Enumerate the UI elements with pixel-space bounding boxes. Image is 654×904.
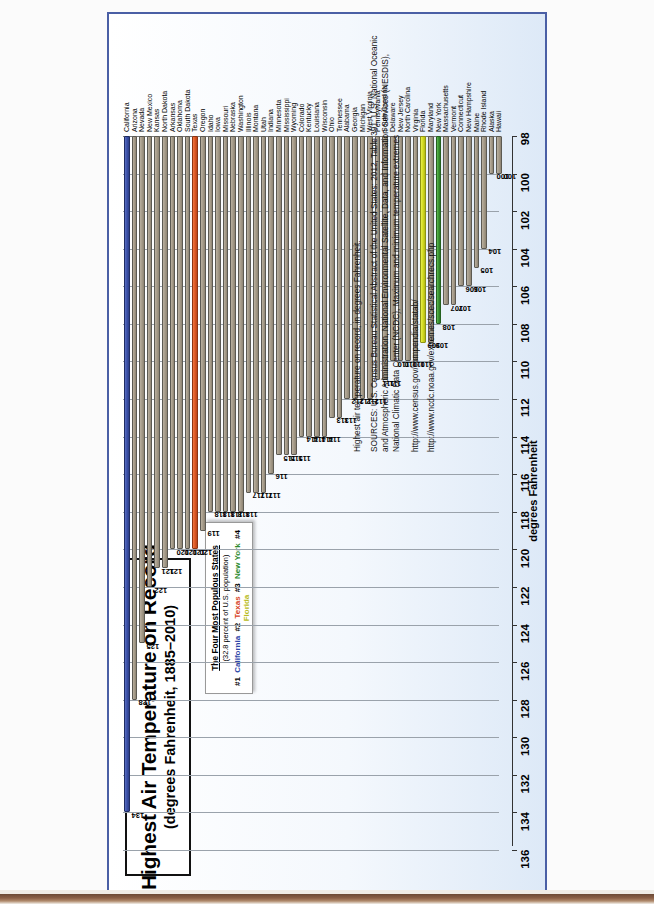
bar-california [124,136,130,812]
bar-row: 114Kentucky [306,136,312,850]
bar-texas [192,136,198,549]
bar-row: 117Utah [261,136,267,850]
bar-row: 119Oregon [200,136,206,850]
bar-colorado [299,136,305,437]
bar-arkansas [170,136,176,549]
bar-row: 118Missouri [223,136,229,850]
bar-row: 118Nebraska [230,136,236,850]
bar-row: 122New Mexico [147,136,153,850]
category-label: Arkansas [169,103,177,132]
bar-row: 112Alabama [344,136,350,850]
axis-tick [512,512,517,513]
bar-row: 118Washington [238,136,244,850]
bar-idaho [208,136,214,512]
category-label: Nevada [138,108,146,132]
bar-row: 125Nevada [139,136,145,850]
category-label: Missouri [222,106,230,132]
category-label: Tennessee [336,98,344,132]
bar-montana [253,136,259,493]
axis-tick [512,474,517,475]
bar-south-dakota [185,136,191,549]
bar-row: 118Iowa [215,136,221,850]
category-label: Arizona [131,108,139,132]
bar-illinois [246,136,252,493]
category-label: Oklahoma [176,100,184,132]
category-label: North Dakota [161,91,169,132]
category-label: Ohio [328,117,336,132]
category-label: Montana [252,105,260,132]
category-label: Kentucky [305,103,313,132]
bar-row: 114Colorado [299,136,305,850]
bar-row: 113Tennessee [337,136,343,850]
bar-row: 118Idaho [208,136,214,850]
bar-kansas [154,136,160,568]
axis-tick [512,737,517,738]
footer-url-census: http://www.census.gov/compendia/statab/ [410,22,420,452]
bar-row: 134California [124,136,130,850]
bar-row: 114Wisconsin [322,136,328,850]
scan-edge-brown [0,894,654,904]
bar-missouri [223,136,229,512]
axis-tick [512,700,517,701]
axis-tick [512,587,517,588]
bar-row: 113Ohio [329,136,335,850]
bar-iowa [215,136,221,512]
bar-mississippi [284,136,290,455]
category-label: Colorado [298,104,306,132]
category-label: Alabama [343,104,351,132]
category-label: New Mexico [146,94,154,132]
category-label: Utah [260,117,268,132]
bar-row: 117Illinois [246,136,252,850]
axis-tick [512,850,517,851]
bar-wisconsin [322,136,328,437]
bar-north-dakota [162,136,168,568]
category-label: Oregon [199,109,207,132]
bar-new-mexico [147,136,153,587]
category-label: Iowa [214,117,222,132]
footer-sources: SOURCES: U.S. Census Bureau Statistical … [369,22,401,452]
bar-row: 114Louisiana [314,136,320,850]
bar-row: 128Arizona [132,136,138,850]
category-label: Kansas [153,109,161,132]
bar-tennessee [337,136,343,418]
category-label: South Dakota [184,90,192,132]
bar-row: 120Oklahoma [177,136,183,850]
gridline [123,850,499,851]
bar-minnesota [276,136,282,455]
scanned-page: Highest Air Temperature on Record (degre… [0,0,654,904]
category-label: Illinois [245,113,253,132]
bar-alabama [344,136,350,399]
bar-row: 121Kansas [154,136,160,850]
bar-utah [261,136,267,493]
bar-ohio [329,136,335,418]
category-label: Louisiana [313,102,321,132]
category-label: Mississippi [283,98,291,132]
bar-row: 117Montana [253,136,259,850]
bar-nevada [139,136,145,643]
bar-arizona [132,136,138,700]
category-label: California [123,102,131,132]
bar-row: 115Mississippi [284,136,290,850]
footer-url-ncdc: http://www.ncdc.noaa.gov/extremes/scec/s… [426,22,436,452]
bar-row: 115Wyoming [291,136,297,850]
bar-nebraska [230,136,236,512]
bar-row: 120South Dakota [185,136,191,850]
category-label: Texas [191,114,199,132]
category-label: Minnesota [275,100,283,132]
bar-row: 115Minnesota [276,136,282,850]
bar-oregon [200,136,206,531]
bar-row: 121North Dakota [162,136,168,850]
category-label: Indiana [267,109,275,132]
axis-tick [512,812,517,813]
footer-note: Highest air temperature on record, in de… [352,22,362,452]
axis-tick [512,625,517,626]
category-label: Wyoming [290,103,298,132]
axis-tick [512,662,517,663]
category-label: Nebraska [229,102,237,132]
axis-tick-label: 136 [519,850,531,869]
bar-louisiana [314,136,320,437]
bar-oklahoma [177,136,183,549]
bar-row: 120Arkansas [170,136,176,850]
bar-row: 120Texas [192,136,198,850]
bar-indiana [268,136,274,474]
